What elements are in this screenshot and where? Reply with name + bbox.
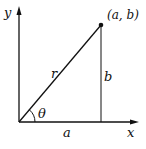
- point-label: (a, b): [107, 8, 139, 22]
- angle-label: θ: [38, 106, 46, 121]
- vertical-side-label: b: [104, 69, 112, 84]
- polar-coordinate-diagram: y x (a, b) r b a θ: [0, 0, 146, 149]
- x-axis-arrowhead: [130, 120, 139, 125]
- y-axis-arrowhead: [17, 6, 22, 15]
- horizontal-side-label: a: [63, 125, 71, 140]
- angle-arc: [29, 110, 35, 122]
- x-axis-label: x: [127, 125, 135, 140]
- y-axis-label: y: [3, 5, 12, 20]
- radius-label: r: [51, 66, 58, 81]
- point-marker: [99, 23, 104, 28]
- radius-line: [19, 25, 101, 122]
